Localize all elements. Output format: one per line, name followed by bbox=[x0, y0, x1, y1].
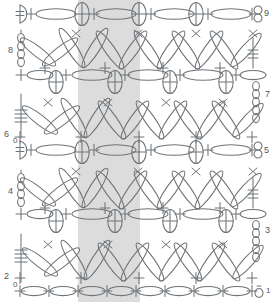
row-label-right-7: 7 bbox=[265, 90, 270, 99]
right-chain-column-7 bbox=[253, 81, 260, 122]
row-5 bbox=[16, 141, 262, 164]
row-label-right-9: 9 bbox=[264, 9, 269, 18]
row-label-right-1: 1 bbox=[266, 287, 270, 295]
row-4 bbox=[18, 166, 265, 214]
row-8 bbox=[18, 26, 265, 74]
row-7 bbox=[16, 70, 266, 94]
row-2 bbox=[15, 234, 266, 284]
row-9 bbox=[16, 3, 262, 26]
row-6 bbox=[15, 94, 266, 143]
crochet-chart: 8 6 0 4 2 0 9 7 5 3 1 bbox=[0, 0, 273, 302]
pattern-diagram bbox=[0, 0, 273, 302]
row-label-left-6: 6 bbox=[4, 130, 9, 139]
row-3 bbox=[16, 209, 266, 233]
row-label-left-8: 8 bbox=[8, 46, 13, 55]
row-label-left-2-zero: 0 bbox=[13, 281, 17, 289]
stitch-symbols bbox=[15, 3, 266, 298]
row-label-left-4: 4 bbox=[8, 187, 13, 196]
row-label-left-6-zero: 0 bbox=[13, 137, 17, 145]
row-label-left-2: 2 bbox=[4, 272, 9, 281]
row-label-right-3: 3 bbox=[265, 226, 270, 235]
right-chain-column-3 bbox=[253, 220, 260, 261]
row-label-right-5: 5 bbox=[264, 146, 269, 155]
